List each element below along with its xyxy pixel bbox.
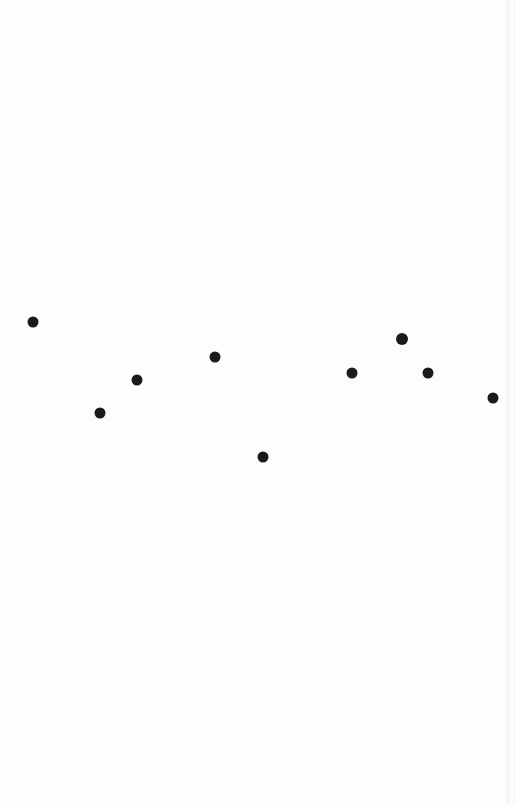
data-point (396, 333, 408, 345)
page-canvas (0, 0, 516, 804)
data-point (488, 393, 499, 404)
data-point (347, 368, 358, 379)
data-point (423, 368, 434, 379)
data-point (210, 352, 221, 363)
scatter-plot-area (0, 0, 516, 804)
data-point (132, 375, 143, 386)
data-point (258, 452, 269, 463)
data-point (28, 317, 39, 328)
data-point (95, 408, 106, 419)
